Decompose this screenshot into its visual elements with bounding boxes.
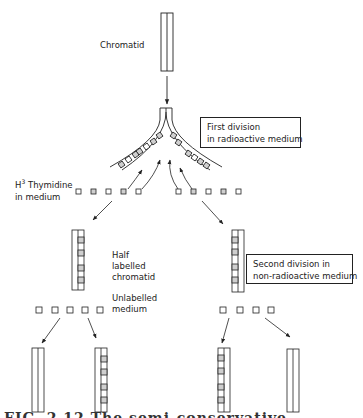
in-medium-label: in medium [15,192,60,203]
first-division-line-1: First division [207,121,294,133]
half-labelled-line-1: Half [112,250,155,261]
daughter-chromatid-labelled-2 [218,348,230,412]
incorporation-arrows [128,160,192,189]
radioactive-medium-nucleotides [76,189,241,194]
first-division-box: First division in radioactive medium [200,117,301,148]
replication-diagram [0,0,363,418]
second-division-box: Second division in non-radioactive mediu… [246,254,353,284]
unlabelled-line-1: Unlabelled [112,293,157,304]
original-chromatid [161,13,173,71]
unlabelled-medium-label: Unlabelled medium [112,293,157,315]
daughter-chromatid-unlabelled-2 [287,349,299,412]
caption-text: FIG. 2.12 The semi-conservative distribu… [4,411,363,418]
daughter-chromatid-labelled-1 [95,348,107,412]
incorporated-labelled-nucleotides-left [118,132,163,168]
second-division-line-1: Second division in [253,258,346,270]
thymidine-label: H3 Thymidine [15,180,73,191]
arrow-to-right-chromatid [202,201,223,224]
daughter-chromatid-unlabelled-1 [32,348,44,412]
figure-caption-cutoff: FIG. 2.12 The semi-conservative distribu… [0,411,363,418]
half-labelled-chromatid-left [72,230,84,290]
chromatid-label: Chromatid [100,40,144,51]
thymidine-rest: Thymidine [25,180,72,190]
second-division-arrows [42,318,290,343]
half-labelled-line-3: chromatid [112,272,155,283]
half-labelled-chromatid-right [232,230,244,292]
half-labelled-label: Half labelled chromatid [112,250,155,283]
unlabelled-line-2: medium [112,304,157,315]
first-division-line-2: in radioactive medium [207,133,294,145]
second-division-line-2: non-radioactive medium [253,270,346,282]
arrow-to-left-chromatid [93,201,112,220]
half-labelled-line-2: labelled [112,261,155,272]
